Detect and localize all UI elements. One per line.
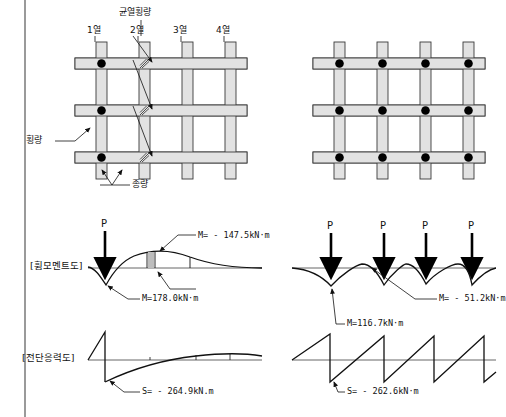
- moment-annotation-positive-right: M=116.7kN·m: [347, 319, 403, 328]
- shear-annotation-left: S= - 264.9kN.m: [142, 387, 214, 396]
- column-header-4: 4열: [216, 26, 230, 35]
- column-header-2: 2열: [130, 26, 144, 35]
- figure-vector-layer: [0, 0, 506, 417]
- left-moment-diagram: [88, 231, 262, 299]
- figure-canvas: 균열횡량 1열 2열 3열 4열 횡량 종량 P [휨모멘트도] M= - 14…: [0, 0, 506, 417]
- moment-curve-right: [292, 264, 496, 286]
- right-shear-diagram: [292, 334, 496, 392]
- point-load-arrows-right: [331, 233, 472, 262]
- column-header-1: 1열: [87, 26, 101, 35]
- load-label-right-p4: P: [468, 221, 474, 231]
- right-grid-diagram: [313, 42, 485, 179]
- moment-annotation-positive-left: M=178.0kN·m: [142, 294, 198, 303]
- left-shear-diagram: [88, 332, 262, 392]
- load-label-right-p3: P: [422, 221, 428, 231]
- shear-diagram-label: [전단응력도]: [22, 353, 74, 363]
- moment-diagram-label: [휨모멘트도]: [30, 261, 82, 271]
- shear-sawtooth-right: [292, 334, 496, 382]
- moment-annotation-negative-right: M= - 51.2kN·m: [439, 294, 506, 303]
- longitudinal-beam-label: 종량: [132, 180, 148, 189]
- load-label-right-p2: P: [380, 221, 386, 231]
- moment-annotation-negative-left: M= - 147.5kN·m: [198, 231, 270, 240]
- transverse-beam-label: 횡량: [26, 136, 42, 145]
- right-moment-diagram: [292, 233, 496, 324]
- transverse-beam-leader: [55, 128, 90, 141]
- shear-sawtooth-left: [88, 332, 105, 382]
- column-header-3: 3열: [173, 26, 187, 35]
- load-label-left-p1: P: [101, 219, 107, 229]
- crack-beam-label: 균열횡량: [119, 8, 151, 17]
- shear-annotation-right: S= - 262.6kN·m: [347, 387, 419, 396]
- left-grid-diagram: [55, 20, 247, 185]
- load-label-right-p1: P: [327, 221, 333, 231]
